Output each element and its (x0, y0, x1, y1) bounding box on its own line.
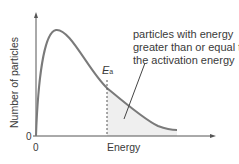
x-axis-label: Energy (107, 141, 140, 154)
x-origin-label: 0 (33, 141, 39, 154)
annotation-line-3: the activation energy (133, 54, 239, 67)
y-origin-label: 0 (26, 130, 32, 143)
distribution-chart (0, 0, 239, 164)
ea-sub: a (109, 68, 113, 75)
x-axis-arrow (210, 134, 216, 138)
annotation-line-2: greater than or equal to (133, 41, 239, 54)
ea-label: Ea (102, 64, 113, 78)
annotation-line-1: particles with energy (133, 28, 239, 41)
y-axis-arrow (34, 12, 38, 18)
annotation-text: particles with energy greater than or eq… (133, 28, 239, 67)
y-axis-label: Number of particles (8, 37, 20, 128)
